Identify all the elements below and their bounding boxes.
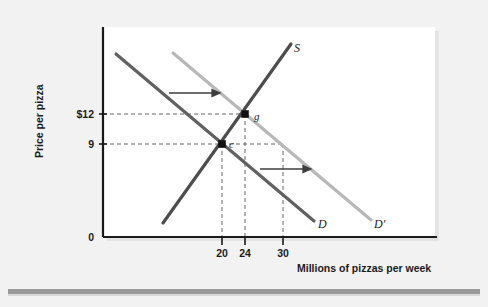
x-tick-label-20: 20 <box>216 247 228 259</box>
point-label-c: c <box>229 138 234 150</box>
bottom-rule <box>8 289 480 294</box>
x-axis-title: Millions of pizzas per week <box>297 262 431 274</box>
demand-prime-curve-label: D' <box>373 217 386 231</box>
supply-curve-label: S <box>294 41 300 55</box>
y-tick-label-12: $12 <box>76 108 94 120</box>
plot-panel-shadow-right <box>435 31 439 239</box>
y-axis-title: Price per pizza <box>33 84 45 158</box>
x-tick-label-30: 30 <box>277 247 289 259</box>
equilibrium-point-c <box>218 140 226 148</box>
supply-demand-chart: Price per pizza $12 9 0 20 24 30 Million… <box>0 0 488 307</box>
y-tick-label-0: 0 <box>88 231 94 243</box>
demand-curve-label: D <box>317 217 327 231</box>
point-label-g: g <box>254 110 260 122</box>
figure-container: Price per pizza $12 9 0 20 24 30 Million… <box>0 0 488 307</box>
bottom-rule-shadow <box>8 294 480 296</box>
equilibrium-point-g <box>241 110 249 118</box>
x-tick-label-24: 24 <box>239 247 251 259</box>
y-tick-label-9: 9 <box>88 138 94 150</box>
